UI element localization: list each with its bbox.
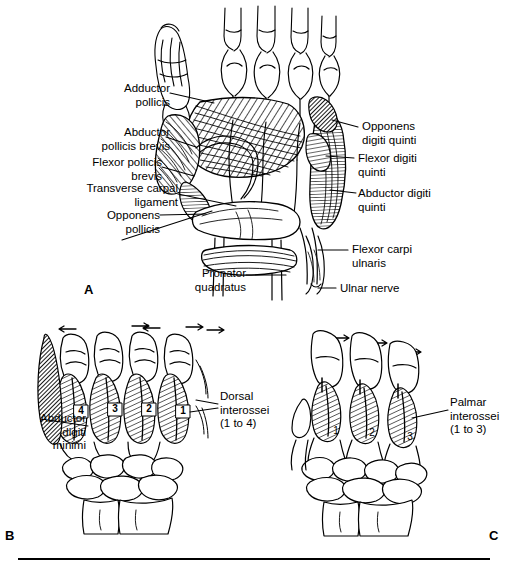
leader-dorsal-interossei-2: [190, 408, 218, 412]
adductor-pollicis-muscle: [186, 98, 304, 177]
panel-c-adduction-arrows: [330, 335, 421, 355]
panel-letter-c: C: [489, 528, 498, 543]
label-palmar-interossei: Palmar interossei (1 to 3): [450, 396, 509, 437]
palmar-interosseus-number-3: 3: [404, 430, 416, 444]
anatomy-figure: Adductor pollicis Abductor pollicis brev…: [0, 0, 509, 569]
label-flexor-carpi-ulnaris: Flexor carpi ulnaris: [352, 243, 472, 270]
dorsal-interosseus-number-4: 4: [74, 404, 88, 418]
palmar-interosseus-number-2: 2: [366, 426, 378, 440]
palmar-interosseus-number-1: 1: [330, 424, 342, 438]
panel-c-carpals: [302, 438, 427, 536]
label-opponens-pollicis: Opponens pollicis: [60, 209, 160, 236]
label-flexor-pollicis-brevis: Flexor pollicis brevis: [46, 156, 162, 183]
panel-b-extensor-hood: [196, 360, 208, 438]
label-dorsal-interossei: Dorsal interossei (1 to 4): [220, 390, 300, 431]
label-abductor-pollicis-brevis: Abductor pollicis brevis: [46, 126, 170, 153]
dorsal-interosseus-number-3: 3: [108, 402, 122, 416]
panel-c-phalanges: [311, 331, 418, 393]
label-adductor-pollicis: Adductor pollicis: [60, 82, 170, 109]
panel-a-flexor-tendons: [221, 50, 340, 123]
panel-b-phalanges: [60, 332, 192, 383]
panel-a-fingers: [224, 6, 336, 57]
leader-abductor-digiti-quinti: [330, 190, 356, 193]
label-abductor-digiti-minimi: Abductor digiti minimi: [4, 412, 86, 453]
leader-flexor-pollicis-brevis: [162, 167, 194, 176]
palmar-interossei-muscles: [312, 378, 417, 448]
hypothenar-muscle-group: [306, 97, 345, 229]
leader-transverse-carpal-ligament: [178, 194, 236, 206]
leader-opponens-digiti-quinti: [332, 120, 358, 127]
label-ulnar-nerve: Ulnar nerve: [340, 282, 460, 296]
label-abductor-digiti-quinti: Abductor digiti quinti: [358, 187, 488, 214]
flexor-carpi-ulnaris-and-ulnar-nerve: [306, 236, 324, 294]
dorsal-interosseus-number-1: 1: [176, 404, 190, 418]
panel-letter-a: A: [84, 282, 93, 297]
leader-adductor-pollicis: [170, 93, 214, 103]
label-transverse-carpal-ligament: Transverse carpal ligament: [38, 182, 178, 209]
leader-abductor-pollicis-brevis: [166, 137, 196, 147]
label-opponens-digiti-quinti: Opponens digiti quinti: [362, 120, 492, 147]
leader-flexor-digiti-quinti: [326, 156, 354, 158]
panel-letter-b: B: [5, 528, 14, 543]
leader-dorsal-interossei: [196, 400, 218, 404]
panel-b-abduction-arrows: [59, 323, 224, 333]
panel-b-carpals: [60, 442, 183, 534]
label-pronator-quadratus: Pronator quadratus: [162, 267, 246, 294]
leader-palmar-interossei: [412, 410, 448, 418]
panel-a-thumb: [155, 24, 190, 132]
figure-bottom-rule: [18, 558, 490, 560]
dorsal-interosseus-number-2: 2: [142, 402, 156, 416]
label-flexor-digiti-quinti: Flexor digiti quinti: [358, 152, 488, 179]
palmar-arch-and-vessels: [192, 120, 300, 240]
leader-opponens-pollicis: [160, 214, 206, 215]
